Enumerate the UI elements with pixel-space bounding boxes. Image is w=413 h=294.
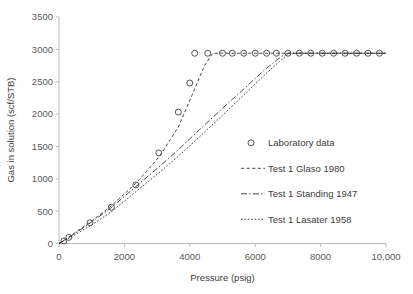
x-tick-label: 8000 — [310, 251, 331, 262]
y-axis-tick-labels: 0500100015002000250030003500 — [32, 11, 53, 249]
chart-canvas: 0500100015002000250030003500 02000400060… — [0, 0, 413, 294]
x-tick-label: 2000 — [114, 251, 135, 262]
x-tick-label: 6000 — [245, 251, 266, 262]
data-point-marker — [192, 50, 198, 56]
legend-item-label: Test 1 Lasater 1958 — [268, 214, 351, 225]
x-tick-label: 0 — [56, 251, 61, 262]
legend-item-label: Laboratory data — [268, 137, 335, 148]
y-tick-label: 3500 — [32, 11, 53, 22]
y-tick-label: 1500 — [32, 141, 53, 152]
x-tick-label: 4000 — [179, 251, 200, 262]
chart-legend: Laboratory dataTest 1 Glaso 1980Test 1 S… — [241, 137, 357, 225]
y-tick-label: 500 — [37, 206, 53, 217]
data-point-marker — [175, 109, 181, 115]
y-tick-label: 2000 — [32, 108, 53, 119]
legend-item-label: Test 1 Glaso 1980 — [268, 163, 345, 174]
y-tick-label: 2500 — [32, 76, 53, 87]
y-axis-title: Gas in solution (scf/STB) — [5, 77, 16, 182]
y-tick-label: 1000 — [32, 173, 53, 184]
legend-marker-icon — [248, 140, 254, 146]
x-axis-tick-labels: 0200040006000800010,000 — [56, 251, 400, 262]
y-tick-label: 3000 — [32, 44, 53, 55]
legend-item-label: Test 1 Standing 1947 — [268, 188, 357, 199]
x-axis-title: Pressure (psig) — [190, 272, 254, 283]
data-point-marker — [205, 50, 211, 56]
chart-figure: 0500100015002000250030003500 02000400060… — [0, 0, 413, 294]
data-point-marker — [187, 80, 193, 86]
y-tick-label: 0 — [48, 238, 53, 249]
x-tick-label: 10,000 — [371, 251, 400, 262]
data-point-marker — [156, 150, 162, 156]
